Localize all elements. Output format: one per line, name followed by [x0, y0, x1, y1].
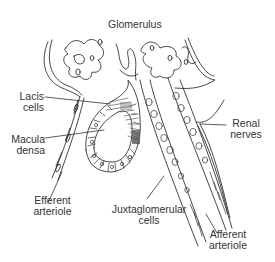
renal-nerve — [196, 100, 224, 122]
label-afferent-arteriole: Afferent arteriole — [205, 229, 251, 251]
label-lacis-line2: cells — [18, 102, 44, 113]
jga-diagram: Glomerulus Lacis cells Macula densa Effe… — [0, 0, 275, 262]
tubule-lumen — [94, 111, 132, 162]
label-afferent-line2: arteriole — [205, 240, 251, 251]
label-renal-nerves: Renal nerves — [228, 118, 264, 140]
label-glomerulus: Glomerulus — [108, 19, 162, 30]
label-renal-line2: nerves — [228, 129, 264, 140]
label-juxtaglomerular-cells: Juxtaglomerular cells — [110, 204, 188, 226]
label-macula-line2: densa — [8, 145, 45, 156]
label-lacis-cells: Lacis cells — [18, 91, 44, 113]
label-jg-line2: cells — [110, 215, 188, 226]
leader-jg — [147, 176, 164, 199]
label-efferent-arteriole: Efferent arteriole — [30, 195, 75, 217]
leader-renal — [200, 124, 226, 125]
label-efferent-line2: arteriole — [30, 206, 75, 217]
label-macula-densa: Macula densa — [8, 134, 45, 156]
